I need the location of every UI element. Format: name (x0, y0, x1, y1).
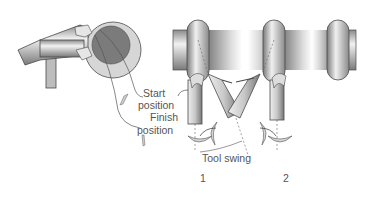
station-2-label: 2 (283, 172, 289, 184)
tool-swing-leader (200, 141, 242, 152)
tool-1-start (188, 80, 202, 124)
start-position-label-1: Start (143, 87, 165, 99)
finish-tool-mark (142, 135, 145, 146)
side-view (18, 22, 145, 146)
tool-swing-diagram (0, 0, 376, 197)
workpiece-core (92, 26, 130, 64)
tool-arm-inner (40, 40, 84, 57)
start-tool-mark (120, 94, 128, 105)
finish-position-label-2: position (137, 124, 173, 136)
swing-crescent-2a (260, 122, 266, 145)
front-view (173, 20, 356, 155)
bar-segment-2 (206, 30, 242, 70)
swing-crescent-1b (211, 122, 217, 145)
start-position-label-2: position (138, 99, 174, 111)
swing-crescent-2b (268, 136, 292, 142)
support-post (46, 58, 56, 88)
finish-position-label-1: Finish (150, 111, 178, 123)
tool-swing-label: Tool swing (202, 152, 251, 164)
station-1-label: 1 (200, 172, 206, 184)
roll-1 (187, 20, 209, 82)
roll-2 (263, 20, 285, 82)
tool-2-start (270, 80, 284, 120)
swing-crescent-1a (188, 136, 212, 142)
start-position-leader (178, 90, 188, 96)
bar-segment-4 (282, 30, 312, 70)
roll-3 (327, 20, 349, 80)
